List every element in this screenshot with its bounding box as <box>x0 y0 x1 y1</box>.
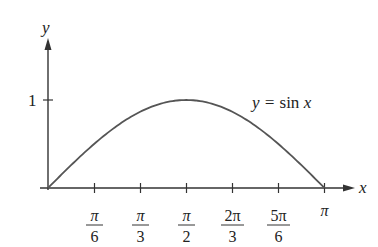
x-axis-arrow-icon <box>343 185 355 192</box>
curve-label: y = sin x <box>250 93 312 112</box>
y-tick-label-1: 1 <box>28 91 37 110</box>
y-axis-label: y <box>40 18 50 37</box>
tick-pi-2-den: 2 <box>183 228 191 245</box>
tick-pi-6-num: π <box>90 207 99 224</box>
tick-2pi-3-num: 2π <box>224 207 240 224</box>
tick-pi-2-num: π <box>182 207 191 224</box>
y-axis-arrow-icon <box>45 38 52 50</box>
tick-pi: π <box>320 202 329 219</box>
tick-5pi-6-num: 5π <box>270 207 286 224</box>
x-tick-labels: π 6 π 3 π 2 2π 3 5π 6 π <box>86 202 329 245</box>
sine-graph: y x 1 π 6 π 3 π 2 2π 3 5π 6 π y = sin x <box>0 0 378 247</box>
tick-pi-3-num: π <box>136 207 145 224</box>
tick-5pi-6-den: 6 <box>275 228 283 245</box>
x-axis-label: x <box>358 178 367 197</box>
tick-pi-3-den: 3 <box>137 228 145 245</box>
tick-pi-6-den: 6 <box>91 228 99 245</box>
tick-2pi-3-den: 3 <box>229 228 237 245</box>
sine-curve <box>48 100 325 188</box>
